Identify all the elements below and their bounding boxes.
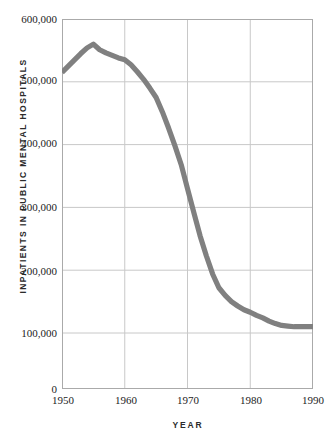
x-axis-title: YEAR — [62, 420, 314, 430]
x-tick-label: 1980 — [221, 395, 281, 406]
chart-svg — [62, 19, 313, 389]
gridlines — [62, 19, 313, 389]
chart-figure: INPATIENTS IN PUBLIC MENTAL HOSPITALS 60… — [0, 0, 334, 438]
plot-area — [62, 19, 313, 389]
x-tick-label: 1950 — [33, 395, 93, 406]
x-tick-label: 1960 — [96, 395, 156, 406]
x-tick-label: 1990 — [283, 395, 334, 406]
x-tick-label: 1970 — [158, 395, 218, 406]
